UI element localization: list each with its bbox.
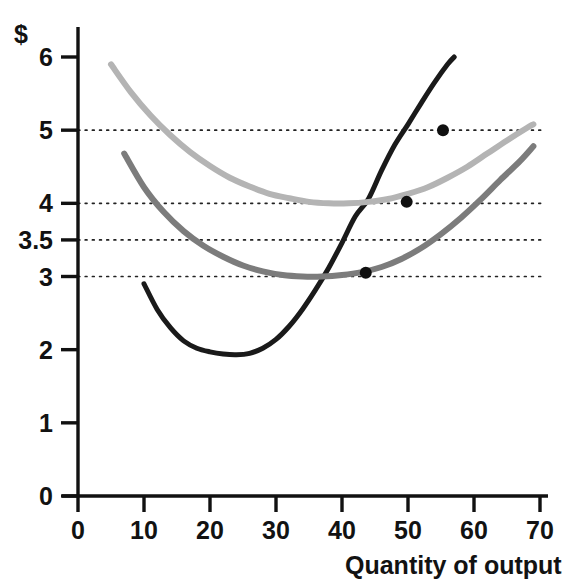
y-tick-label-0: 0	[0, 484, 53, 509]
y-tick-label-6: 6	[0, 45, 53, 70]
y-tick-label-3: 3	[0, 265, 53, 290]
x-axis-title: Quantity of output	[345, 553, 562, 578]
y-tick-label-5: 5	[0, 118, 53, 143]
data-series	[111, 57, 533, 355]
y-tick-label-1: 1	[0, 411, 53, 436]
point-mc-crosses-avc-minimum	[360, 267, 372, 279]
axis-ticks	[61, 57, 540, 512]
y-tick-label-2: 2	[0, 338, 53, 363]
point-mc-crosses-atc-minimum	[401, 196, 413, 208]
point-mc-equals-atc-upper	[437, 124, 449, 136]
x-tick-label-70: 70	[500, 518, 566, 543]
curve-average-total-cost	[111, 64, 533, 203]
y-axis-title: $	[14, 22, 28, 47]
y-tick-label-3.5: 3.5	[0, 228, 53, 253]
y-tick-label-4: 4	[0, 191, 53, 216]
